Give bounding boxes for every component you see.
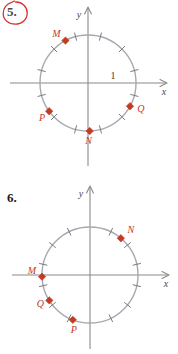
unit-circle-diagram-5: MNPQxy1	[0, 0, 178, 177]
point-label-m: M	[27, 265, 37, 276]
marked-point-m	[62, 37, 69, 44]
point-label-q: Q	[137, 103, 145, 114]
x-axis-label: x	[163, 278, 169, 289]
y-axis-label: y	[78, 188, 84, 199]
point-label-q: Q	[37, 298, 45, 309]
point-label-n: N	[127, 224, 136, 235]
problem-number-5: 5.	[7, 4, 17, 20]
point-label-p: P	[38, 112, 45, 123]
marked-point-m	[38, 273, 45, 280]
y-axis-label: y	[76, 9, 82, 20]
marked-point-p	[69, 316, 76, 323]
unit-radius-label: 1	[111, 70, 116, 81]
point-label-m: M	[51, 28, 61, 39]
problem-5-figure: MNPQxy1 5.	[0, 0, 178, 177]
problem-6-figure: MNPQxy	[0, 177, 178, 354]
problem-number-6: 6.	[7, 190, 17, 206]
unit-circle-diagram-6: MNPQxy	[0, 177, 178, 354]
point-label-n: N	[84, 135, 93, 146]
x-axis-label: x	[161, 86, 167, 97]
marked-point-n	[86, 127, 93, 134]
point-label-p: P	[70, 324, 77, 335]
marked-point-q	[126, 103, 133, 110]
